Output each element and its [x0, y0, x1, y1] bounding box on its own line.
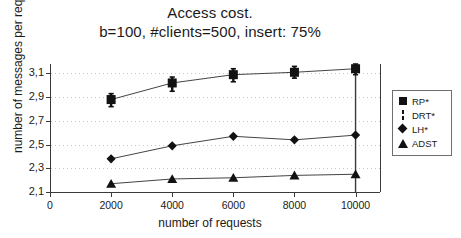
legend-item-adst: ADST: [397, 137, 447, 150]
triangle-glyph: [398, 139, 408, 148]
right-axis-line: [380, 64, 381, 192]
rp-series-point: [168, 78, 177, 87]
x-tick: [50, 192, 51, 197]
chart-subtitle: b=100, #clients=500, insert: 75%: [60, 22, 360, 41]
data-series-layer: [50, 64, 380, 192]
legend-item-rp: RP*: [397, 95, 447, 108]
y-tick-label: 2,9: [29, 91, 44, 102]
x-tick-label: 6000: [222, 200, 245, 211]
lh-series-point: [290, 135, 299, 144]
adst-series-point: [351, 169, 361, 178]
square-icon: [397, 96, 410, 107]
y-tick-label: 2,3: [29, 162, 44, 173]
legend-item-drt: DRT*: [397, 109, 447, 122]
x-tick: [294, 192, 295, 197]
vertical-bar-glyph: [402, 110, 404, 120]
diamond-icon: [397, 124, 410, 135]
legend-item-label: LH*: [412, 124, 428, 135]
x-tick-label: 4000: [161, 200, 184, 211]
chart-legend: RP*DRT*LH*ADST: [392, 90, 452, 156]
chart-title: Access cost.: [60, 4, 360, 22]
rp-series-point: [351, 64, 360, 73]
legend-item-label: RP*: [412, 96, 429, 107]
lh-series-point: [107, 154, 116, 163]
chart-figure: Access cost. b=100, #clients=500, insert…: [0, 0, 461, 238]
square-glyph: [399, 97, 407, 105]
y-tick-label: 3,1: [29, 67, 44, 78]
triangle-icon: [397, 138, 410, 149]
chart-title-block: Access cost. b=100, #clients=500, insert…: [60, 4, 360, 41]
diamond-glyph: [398, 124, 408, 134]
plot-area: 2,12,32,52,72,93,1 020004000600080001000…: [50, 64, 380, 192]
y-tick-label: 2,5: [29, 139, 44, 150]
rp-series-point: [229, 70, 238, 79]
rp-series-point: [107, 95, 116, 104]
x-tick: [356, 192, 357, 197]
y-tick-label: 2,1: [29, 186, 44, 197]
x-tick: [172, 192, 173, 197]
legend-item-label: ADST: [412, 138, 437, 149]
y-axis-label: number of messages per request: [11, 0, 25, 205]
rp-series-point: [290, 68, 299, 77]
legend-item-lh: LH*: [397, 123, 447, 136]
lh-series-point: [168, 141, 177, 150]
x-tick-label: 10000: [341, 200, 370, 211]
x-tick-label: 8000: [283, 200, 306, 211]
x-tick: [233, 192, 234, 197]
legend-item-label: DRT*: [412, 110, 435, 121]
vertical-bar-icon: [397, 110, 410, 121]
x-tick-label: 0: [47, 200, 53, 211]
x-tick: [111, 192, 112, 197]
lh-series-point: [351, 131, 360, 140]
x-axis-label: number of requests: [60, 216, 360, 230]
x-tick-label: 2000: [99, 200, 122, 211]
x-axis-line: [50, 192, 380, 193]
y-tick-label: 2,7: [29, 115, 44, 126]
lh-series-point: [229, 132, 238, 141]
